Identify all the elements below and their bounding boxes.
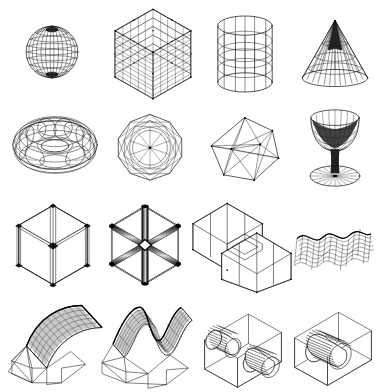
single-cylinder-svg (285, 305, 380, 391)
saddle-mesh-base-box (102, 344, 188, 388)
icosahedron-internal-edges (212, 118, 279, 180)
thin-tube-cube-svg (8, 200, 98, 290)
ripple-u-curves (294, 232, 374, 268)
icosahedron-svg (206, 114, 284, 184)
arched-mesh-svg (6, 300, 106, 392)
polyhedron-center-node (149, 146, 152, 149)
sphere-poles (46, 27, 58, 76)
sphere-meridians (26, 26, 78, 78)
ripple-patch-svg (292, 212, 374, 280)
figure-cylindrical-mesh-over-box (6, 300, 106, 392)
figure-sphere-wireframe (14, 14, 90, 90)
thick-tube-cube-svg (100, 200, 190, 290)
figure-cube-thin-tube-edges (8, 200, 98, 290)
cylinder-svg (205, 12, 285, 96)
two-cylinders-svg (195, 305, 291, 391)
polyhedron-svg (112, 110, 188, 184)
two-cyl-box (205, 314, 282, 387)
icosahedron-vertices (211, 117, 280, 181)
sphere-svg (14, 14, 90, 90)
figure-two-cylinders-in-box (195, 305, 291, 391)
figure-interlocking-open-boxes (190, 196, 294, 296)
goblet-foot (310, 166, 360, 186)
figure-goblet-surface-of-revolution (296, 106, 374, 190)
figure-single-cylinder-in-box (285, 305, 380, 391)
figure-saddle-mesh-over-box (100, 300, 196, 392)
cylinder-generators (218, 16, 272, 92)
saddle-mesh-surface (113, 307, 192, 357)
goblet-bowl (311, 110, 359, 151)
figure-cylinder-wireframe (205, 12, 285, 96)
figure-ripple-surface-patch (292, 212, 374, 280)
icosahedron-outline (212, 118, 279, 180)
goblet-svg (296, 106, 374, 190)
torus-svg (10, 106, 100, 184)
figure-polyhedron-axial-view (112, 110, 188, 184)
figure-cone-wireframe (296, 14, 374, 96)
figure-icosahedron-wireframe (206, 114, 284, 184)
figure-torus-wireframe (10, 106, 100, 184)
two-cyl-upper (203, 325, 245, 360)
linked-boxes-svg (190, 196, 294, 296)
figure-cube-thick-tube-edges (100, 200, 190, 290)
cone-svg (296, 14, 374, 96)
one-cyl-body (301, 330, 355, 373)
figure-plate (0, 0, 380, 392)
lattice-cube-svg (110, 8, 196, 100)
saddle-mesh-svg (100, 300, 196, 392)
figure-lattice-cube-grid (110, 8, 196, 100)
